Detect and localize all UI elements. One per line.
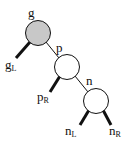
label-g: g [28,5,35,20]
node-p [55,55,80,80]
label-pR: pR [37,89,50,105]
edge-g-gL [16,42,30,58]
node-g [26,21,51,46]
tree-diagram: g p n gL pR nL nR [0,0,135,147]
label-nL: nL [65,123,77,139]
node-n [84,89,109,114]
label-nR: nR [109,123,122,139]
label-p: p [56,40,63,55]
edge-n-nL [80,110,89,125]
label-gL: gL [5,57,17,73]
label-n: n [86,73,93,88]
edge-p-pR [50,76,60,92]
